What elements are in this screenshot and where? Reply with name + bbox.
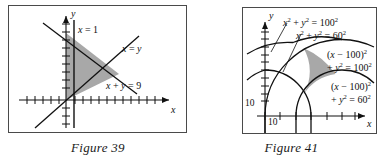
figure-39-plot-frame: x y x = 1 x = y x + y = 9 bbox=[8, 5, 187, 133]
figure-41-y-axis-label: y bbox=[269, 10, 273, 21]
label-x-plus-y-equals-9: x + y = 9 bbox=[106, 80, 141, 92]
label-x-equals-1: x = 1 bbox=[78, 24, 98, 36]
figure-41-x-tick-label-10: 10 bbox=[268, 117, 278, 127]
figure-41-x-axis-label: x bbox=[367, 118, 371, 129]
label-circle-origin-radius-60: x2 + y2 = 602 bbox=[296, 29, 346, 42]
figure-41: x y 10 10 x2 + y2 = 1002 x2 + y2 = 602 (… bbox=[196, 0, 387, 163]
label-circle-shift-100-radius-100: (x − 100)2 + y2 = 1002 bbox=[327, 48, 372, 74]
figure-41-caption: Figure 41 bbox=[196, 140, 387, 156]
label-circle-origin-radius-100: x2 + y2 = 1002 bbox=[283, 16, 338, 29]
figure-41-y-tick-label-10: 10 bbox=[245, 98, 255, 108]
label-x-equals-y: x = y bbox=[122, 43, 142, 55]
figure-39-x-axis-label: x bbox=[171, 104, 175, 115]
label-circle-shift-100-radius-60: (x − 100)2 + y2 = 602 bbox=[331, 80, 371, 106]
figure-41-plot-frame: x y 10 10 x2 + y2 = 1002 x2 + y2 = 602 (… bbox=[242, 7, 377, 134]
figure-39: x y x = 1 x = y x + y = 9 Figure 39 bbox=[0, 0, 196, 163]
arc-origin-radius-60 bbox=[247, 70, 311, 134]
figure-39-caption: Figure 39 bbox=[0, 140, 196, 156]
figure-39-y-axis-label: y bbox=[71, 8, 75, 19]
